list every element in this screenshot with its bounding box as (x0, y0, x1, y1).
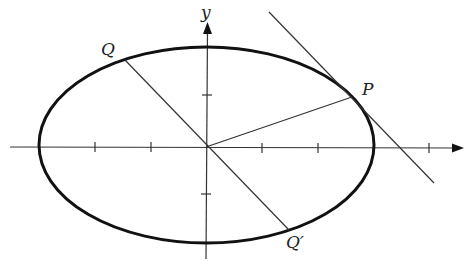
point-label-Q: Q (101, 41, 115, 58)
point-label-Q-prime: Q′ (286, 234, 304, 251)
tangent-at-P (269, 12, 434, 183)
x-axis-arrow-icon (452, 144, 464, 153)
point-label-P: P (362, 81, 373, 98)
y-axis-arrow-icon (203, 22, 212, 34)
x-axis (10, 147, 458, 148)
radius-OP (206, 97, 352, 147)
diagram-svg (0, 0, 469, 266)
ellipse-diagram: y Q P Q′ (0, 0, 469, 266)
y-axis-label: y (201, 4, 211, 21)
